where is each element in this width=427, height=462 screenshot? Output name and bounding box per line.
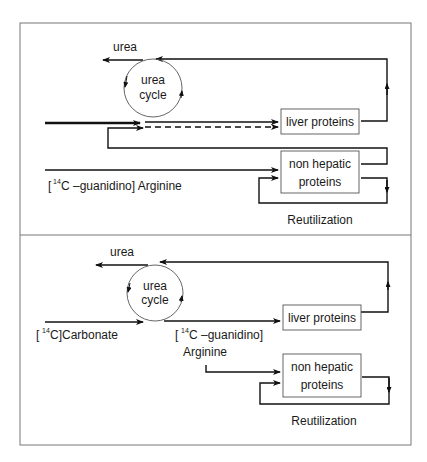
carbonate-label: C]Carbonate (50, 328, 118, 342)
svg-text:cycle: cycle (139, 88, 167, 102)
svg-text:14: 14 (53, 178, 61, 185)
reutilization-label: Reutilization (287, 213, 352, 227)
svg-text:urea: urea (110, 245, 134, 259)
svg-text:14: 14 (181, 327, 189, 334)
metabolic-diagram: urea urea cycle liver proteins non hepat… (0, 0, 427, 462)
svg-text:[: [ (175, 328, 179, 342)
urea-label: urea (113, 40, 137, 54)
svg-text:cycle: cycle (141, 293, 169, 307)
svg-text:[: [ (48, 179, 52, 193)
svg-text:proteins: proteins (299, 175, 342, 189)
svg-text:proteins: proteins (301, 378, 344, 392)
svg-text:Reutilization: Reutilization (291, 414, 356, 428)
svg-text:urea: urea (143, 279, 167, 293)
svg-text:non hepatic: non hepatic (291, 360, 353, 374)
svg-text:14: 14 (42, 327, 50, 334)
svg-text:[: [ (36, 328, 40, 342)
svg-text:liver proteins: liver proteins (288, 311, 356, 325)
nonhepatic-label: non hepatic (289, 157, 351, 171)
guanidino-arginine-label: C –guanidino] Arginine (61, 179, 182, 193)
svg-text:urea: urea (141, 73, 165, 87)
bottom-panel-labels: urea urea cycle liver proteins non hepat… (36, 245, 357, 428)
svg-text:C –guanidino]: C –guanidino] (189, 328, 263, 342)
liver-proteins-label: liver proteins (286, 115, 354, 129)
svg-text:Arginine: Arginine (183, 345, 227, 359)
